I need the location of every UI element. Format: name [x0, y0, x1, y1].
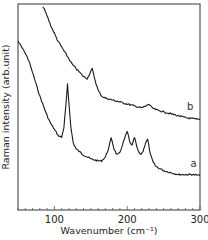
- x-tick-label: 300: [190, 214, 208, 225]
- chart-background: [0, 0, 208, 240]
- raman-spectrum-chart: 100200300 ab Wavenumber (cm⁻¹) Raman int…: [0, 0, 208, 240]
- x-tick-label: 100: [45, 214, 64, 225]
- curve-label-b: b: [187, 101, 193, 112]
- y-axis-title: Raman intensity (arb.unit): [0, 44, 11, 169]
- x-axis-title: Wavenumber (cm⁻¹): [61, 225, 158, 236]
- x-tick-label: 200: [118, 214, 137, 225]
- curve-label-a: a: [191, 158, 197, 169]
